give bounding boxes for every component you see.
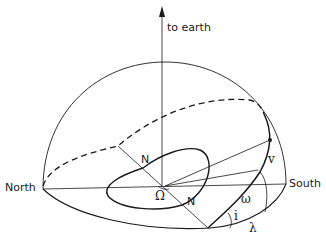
- argument-periastron-label: ω: [241, 193, 251, 205]
- hemisphere-outline: [43, 62, 286, 189]
- to-earth-label: to earth: [167, 22, 211, 33]
- node-lower-label: N: [187, 196, 195, 207]
- north-label: North: [5, 182, 36, 193]
- ascending-node-label: Ω: [155, 190, 165, 202]
- arrowhead-icon: [159, 6, 165, 17]
- node-upper-label: N: [141, 154, 149, 165]
- star-position-dot: [268, 138, 272, 142]
- true-anomaly-label: v: [268, 153, 275, 165]
- inclination-label: i: [234, 210, 238, 222]
- periastron-line: [165, 170, 258, 186]
- orbit-plane-great-circle-solid: [208, 114, 270, 228]
- lambda-arc: [260, 172, 267, 212]
- south-label: South: [289, 178, 321, 189]
- longitude-label: λ: [249, 222, 257, 234]
- orbit-plane-great-circle-dashed: [43, 99, 264, 186]
